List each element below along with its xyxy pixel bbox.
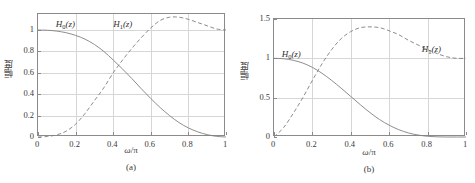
plot-area-a [37,13,225,136]
x-axis-label-a: ω/π [124,146,137,155]
x-tick-mark [466,132,467,135]
curve-h0 [38,30,226,137]
x-tick-label: 0.2 [306,140,317,149]
curve-label-h1: H1(z) [422,45,441,56]
curve-h1 [38,17,226,137]
x-tick-label: 0 [271,140,275,149]
y-tick-label: 0.5 [247,92,270,101]
x-tick-label: 0.8 [182,140,193,149]
x-tick-label: 0.4 [107,140,118,149]
subcaption-a: (a) [126,163,136,172]
panel-a: 幅度 ω/π (a) 00.20.40.60.8100.20.40.60.81H… [0,0,237,183]
curve-label-h0: H0(z) [282,50,301,61]
curve-label-tail: (z) [66,19,76,29]
curve-layer-a [38,14,226,137]
x-tick-label: 0.8 [421,140,432,149]
curve-label-tail: (z) [432,44,442,54]
x-tick-label: 0.4 [344,140,355,149]
x-axis-label-b: ω/π [362,148,375,157]
curve-label-tail: (z) [291,49,301,59]
y-tick-label: 1 [247,53,270,62]
y-tick-label: 1.5 [247,14,270,23]
y-axis-label-b: 幅度 [240,62,249,80]
y-tick-label: 0.8 [11,46,34,55]
y-tick-label: 0.2 [11,110,34,119]
panel-b: 幅度 ω/π (b) 00.20.40.60.8100.511.5H0(z)H1… [237,0,474,183]
subcaption-b: (b) [364,165,375,174]
x-tick-label: 0.6 [383,140,394,149]
y-tick-label: 0 [11,132,34,141]
figure-container: 幅度 ω/π (a) 00.20.40.60.8100.20.40.60.81H… [0,0,475,183]
y-tick-label: 0.6 [11,68,34,77]
x-tick-label: 0.2 [69,140,80,149]
x-tick-label: 0 [35,140,39,149]
y-tick-label: 1 [11,25,34,34]
curve-layer-b [274,19,466,137]
x-tick-label: 1 [223,140,227,149]
x-tick-label: 0.6 [144,140,155,149]
plot-area-b [273,18,465,136]
y-tick-label: 0.4 [11,89,34,98]
y-tick-label: 0 [247,132,270,141]
x-tick-mark [226,132,227,135]
curve-label-h0: H0(z) [56,20,75,31]
x-tick-label: 1 [463,140,467,149]
curve-label-h1: H1(z) [113,20,132,31]
curve-label-tail: (z) [123,19,133,29]
